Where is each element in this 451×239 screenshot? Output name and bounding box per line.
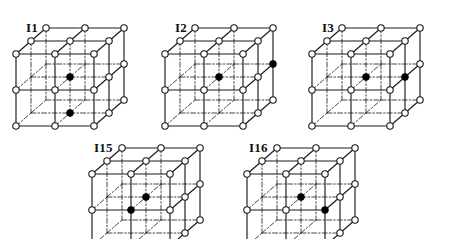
lattice-node — [121, 97, 127, 103]
lattice-node — [378, 25, 384, 31]
lattice-node — [348, 51, 354, 57]
lattice-node — [259, 158, 265, 164]
lattice-node — [283, 171, 289, 177]
figure-label-i2: I2 — [175, 20, 187, 36]
lattice-figure-i2: I2 — [163, 14, 287, 134]
lattice-node — [43, 25, 49, 31]
lattice-node — [352, 181, 358, 187]
lattice-node — [231, 25, 237, 31]
lattice-node — [89, 207, 95, 213]
lattice-node — [270, 97, 276, 103]
lattice-node — [337, 158, 343, 164]
lattice-node — [197, 181, 203, 187]
lattice-node — [324, 38, 330, 44]
marked-site — [143, 194, 150, 201]
figure-label-i15: I15 — [94, 140, 113, 156]
lattice-node — [244, 171, 250, 177]
lattice-node — [197, 145, 203, 151]
marked-site — [298, 194, 305, 201]
lattice-node — [352, 145, 358, 151]
lattice-node — [309, 51, 315, 57]
lattice-node — [337, 194, 343, 200]
lattice-node — [255, 38, 261, 44]
lattice-node — [201, 123, 207, 129]
lattice-node — [244, 207, 250, 213]
lattice-node — [298, 158, 304, 164]
figure-label-i16: I16 — [249, 140, 268, 156]
lattice-node — [91, 51, 97, 57]
marked-site — [216, 74, 223, 81]
lattice-figure-i16: I16 — [245, 134, 369, 239]
lattice-node — [91, 123, 97, 129]
lattice-node — [13, 51, 19, 57]
lattice-node — [402, 38, 408, 44]
lattice-node — [417, 97, 423, 103]
figure-label-i3: I3 — [322, 20, 334, 36]
lattice-node — [91, 87, 97, 93]
lattice-node — [162, 123, 168, 129]
lattice-node — [255, 110, 261, 116]
marked-site — [402, 74, 409, 81]
lattice-node — [337, 230, 343, 236]
lattice-node — [201, 51, 207, 57]
lattice-node — [128, 171, 134, 177]
lattice-node — [387, 87, 393, 93]
lattice-node — [104, 158, 110, 164]
lattice-node — [162, 87, 168, 93]
lattice-node — [167, 171, 173, 177]
marked-site — [67, 74, 74, 81]
marked-site — [128, 207, 135, 214]
lattice-node — [283, 207, 289, 213]
lattice-node — [182, 230, 188, 236]
lattice-node — [162, 51, 168, 57]
lattice-node — [240, 123, 246, 129]
marked-site — [322, 207, 329, 214]
lattice-node — [106, 38, 112, 44]
lattice-node — [313, 145, 319, 151]
lattice-figure-i3: I3 — [310, 14, 434, 134]
lattice-node — [309, 123, 315, 129]
lattice-node — [167, 207, 173, 213]
lattice-node — [240, 87, 246, 93]
lattice-node — [270, 25, 276, 31]
lattice-node — [201, 87, 207, 93]
lattice-node — [417, 25, 423, 31]
lattice-node — [121, 61, 127, 67]
lattice-node — [216, 38, 222, 44]
lattice-node — [402, 110, 408, 116]
marked-site — [363, 74, 370, 81]
lattice-node — [352, 217, 358, 223]
lattice-node — [89, 171, 95, 177]
lattice-node — [387, 123, 393, 129]
lattice-node — [158, 145, 164, 151]
lattice-node — [119, 145, 125, 151]
figure-label-i1: I1 — [26, 20, 38, 36]
lattice-figure-i15: I15 — [90, 134, 214, 239]
lattice-node — [182, 158, 188, 164]
marked-site — [67, 110, 74, 117]
lattice-node — [143, 158, 149, 164]
figure-canvas: I1I2I3I15I16 — [0, 0, 451, 239]
lattice-node — [363, 38, 369, 44]
lattice-node — [82, 25, 88, 31]
lattice-node — [52, 123, 58, 129]
lattice-node — [255, 74, 261, 80]
lattice-node — [240, 51, 246, 57]
lattice-node — [387, 51, 393, 57]
lattice-node — [348, 87, 354, 93]
lattice-node — [339, 25, 345, 31]
lattice-node — [274, 145, 280, 151]
lattice-node — [177, 38, 183, 44]
lattice-node — [67, 38, 73, 44]
lattice-node — [121, 25, 127, 31]
lattice-node — [106, 74, 112, 80]
lattice-node — [417, 61, 423, 67]
lattice-node — [52, 51, 58, 57]
lattice-figure-i1: I1 — [14, 14, 138, 134]
lattice-node — [106, 110, 112, 116]
lattice-node — [13, 123, 19, 129]
marked-site — [270, 61, 277, 68]
lattice-node — [28, 38, 34, 44]
lattice-node — [197, 217, 203, 223]
lattice-node — [348, 123, 354, 129]
